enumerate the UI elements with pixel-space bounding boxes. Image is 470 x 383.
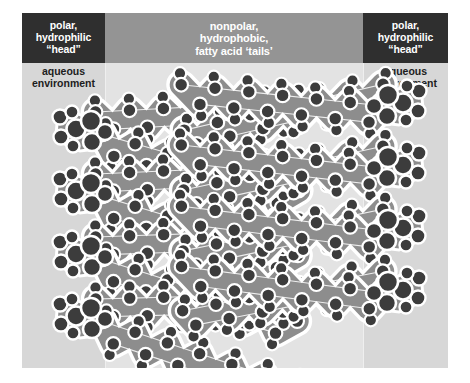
left-header-label: polar, hydrophilic “head” (36, 20, 92, 55)
right-header-box: polar, hydrophilic “head” (363, 13, 448, 63)
bilayer-figure: nonpolar, hydrophobic, fatty acid ‘tails… (22, 13, 448, 368)
left-column-divider (105, 13, 106, 368)
left-environment-label: aqueous environment (22, 65, 105, 89)
center-header-label: nonpolar, hydrophobic, fatty acid ‘tails… (105, 20, 363, 57)
left-header-box: polar, hydrophilic “head” (22, 13, 105, 63)
center-hydrophobic-column (105, 13, 363, 368)
right-environment-label: aqueous environment (363, 65, 448, 89)
right-header-label: polar, hydrophilic “head” (378, 20, 434, 55)
center-header-band: nonpolar, hydrophobic, fatty acid ‘tails… (105, 13, 363, 63)
